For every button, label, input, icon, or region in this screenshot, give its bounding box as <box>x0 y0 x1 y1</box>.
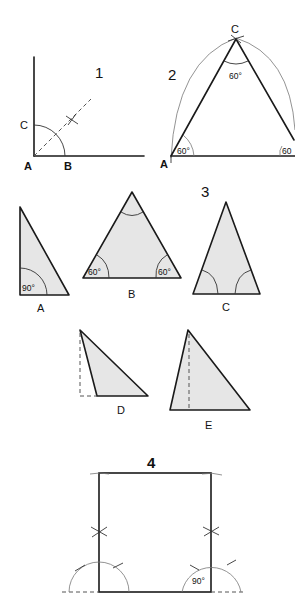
figure-number-2: 2 <box>168 66 176 83</box>
cross-mark <box>66 114 78 125</box>
right-arc <box>236 38 295 130</box>
triangle-d: D <box>80 330 148 416</box>
figure-4-square-construction: 4 90° <box>62 454 245 592</box>
triangle-e-shape <box>170 330 250 410</box>
label-b: B <box>64 160 72 172</box>
angle-right: 60 <box>282 146 292 156</box>
triangle-label: C <box>222 301 230 313</box>
top-angle-arc <box>224 61 248 64</box>
right-arc-ticks <box>190 560 236 570</box>
figure-1-bisect-right-angle: 1 C A B <box>20 57 144 172</box>
triangle-a-shape <box>20 207 69 295</box>
triangle-c-shape <box>193 202 260 294</box>
bisector-line <box>34 99 91 156</box>
label-c: C <box>231 23 239 35</box>
triangle-label: D <box>117 404 125 416</box>
figure-number-3: 3 <box>201 183 209 200</box>
angle-left: 60° <box>177 146 190 156</box>
figure-2-equilateral-triangle: 2 C A 60° 60° 60 <box>160 23 295 170</box>
geometry-diagram: 1 C A B 2 C A 60° 60° 60 3 90° A 60° <box>0 0 295 613</box>
figure-number-4: 4 <box>147 454 156 471</box>
triangle-e: E <box>170 330 250 431</box>
label-c: C <box>20 119 28 131</box>
angle-top: 60° <box>229 71 242 81</box>
figure-number-1: 1 <box>95 64 103 81</box>
triangle-label: B <box>128 288 135 300</box>
triangle-b: 60° 60° B <box>83 192 181 300</box>
angle-right-label: 60° <box>158 267 171 277</box>
top-right-arc <box>202 473 222 475</box>
apex-cross <box>228 35 244 43</box>
label-a: A <box>24 160 32 172</box>
left-side <box>171 39 236 156</box>
triangle-label: A <box>37 302 45 314</box>
label-a: A <box>160 158 168 170</box>
triangle-c: C <box>193 202 260 313</box>
angle-label: 90° <box>192 576 205 586</box>
triangle-d-shape <box>80 330 148 396</box>
triangle-a: 90° A <box>20 207 69 314</box>
triangle-label: E <box>205 419 212 431</box>
angle-label: 90° <box>22 283 35 293</box>
triangle-b-shape <box>83 192 181 278</box>
angle-left-label: 60° <box>88 267 101 277</box>
square <box>99 473 211 592</box>
